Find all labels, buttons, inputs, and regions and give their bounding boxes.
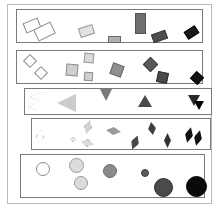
circle-marker bbox=[74, 176, 88, 190]
panel-rhombi bbox=[31, 118, 211, 150]
circle-marker bbox=[141, 169, 149, 177]
circle-marker bbox=[69, 158, 84, 173]
circle-marker bbox=[36, 162, 50, 176]
triangle-marker bbox=[100, 89, 112, 101]
shape-gradient-figure bbox=[0, 0, 219, 210]
triangle-marker bbox=[57, 94, 76, 112]
triangle-marker bbox=[30, 92, 41, 102]
circle-marker bbox=[103, 164, 117, 178]
triangle-marker bbox=[138, 95, 152, 107]
panel-squares bbox=[16, 50, 203, 84]
triangle-marker bbox=[28, 103, 36, 111]
triangle-marker bbox=[194, 101, 204, 110]
square-marker bbox=[65, 63, 78, 76]
square-marker bbox=[84, 53, 95, 64]
rectangle-marker bbox=[108, 36, 121, 43]
circle-marker bbox=[186, 176, 207, 197]
circle-marker bbox=[154, 178, 173, 197]
square-marker bbox=[156, 71, 169, 84]
panel-triangles bbox=[24, 88, 212, 115]
rectangle-marker bbox=[135, 13, 146, 34]
square-marker bbox=[84, 72, 93, 81]
